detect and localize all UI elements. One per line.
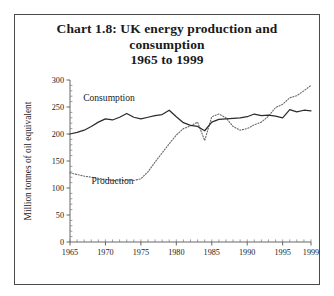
series-line-consumption [70, 110, 311, 134]
line-chart-plot: 050100150200250300 Million tonnes of oil… [15, 70, 321, 284]
chart-figure-frame: Chart 1.8: UK energy production and cons… [14, 14, 320, 285]
chart-title-line-3: 1965 to 1999 [15, 52, 319, 68]
x-tick-label-1965: 1965 [62, 248, 78, 257]
annotation-consumption: Consumption [83, 92, 135, 103]
x-tick-label-1990: 1990 [239, 248, 255, 257]
y-axis: 050100150200250300 Million tonnes of oil… [23, 76, 72, 247]
chart-title-line-2: consumption [15, 37, 319, 53]
chart-title-line-1: Chart 1.8: UK energy production and [15, 21, 319, 37]
y-tick-label-0: 0 [60, 238, 64, 247]
x-tick-label-1970: 1970 [97, 248, 113, 257]
chart-annotations: ConsumptionProduction [83, 92, 135, 186]
y-axis-tick-labels: 050100150200250300 [52, 76, 64, 247]
y-axis-ticks [67, 80, 73, 242]
x-axis: 19651970197519801985199019951999 [62, 239, 319, 256]
chart-title: Chart 1.8: UK energy production and cons… [15, 21, 319, 68]
y-tick-label-250: 250 [52, 103, 64, 112]
x-axis-tick-labels: 19651970197519801985199019951999 [62, 248, 319, 257]
y-tick-label-100: 100 [52, 184, 64, 193]
y-tick-label-150: 150 [52, 157, 64, 166]
x-tick-label-1995: 1995 [274, 248, 290, 257]
y-tick-label-200: 200 [52, 130, 64, 139]
x-tick-label-1985: 1985 [204, 248, 220, 257]
y-tick-label-300: 300 [52, 76, 64, 85]
x-tick-label-1980: 1980 [168, 248, 184, 257]
x-tick-label-1999: 1999 [303, 248, 319, 257]
x-axis-major-ticks [70, 242, 311, 246]
x-tick-label-1975: 1975 [133, 248, 149, 257]
y-tick-label-50: 50 [56, 211, 64, 220]
annotation-production: Production [91, 175, 133, 186]
y-axis-title: Million tonnes of oil equivalent [23, 101, 33, 220]
